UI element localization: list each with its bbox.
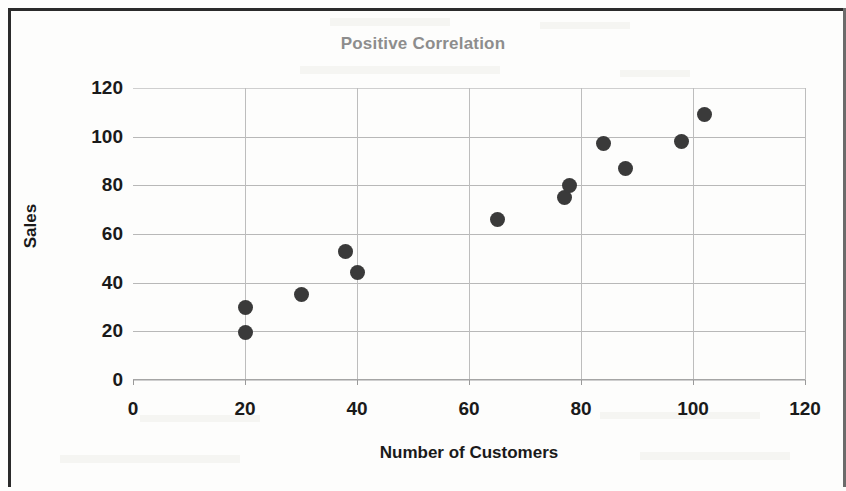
- plot-area: [133, 88, 805, 380]
- y-axis-title: Sales: [21, 171, 41, 281]
- tick-x-60: [469, 380, 470, 385]
- y-tick-label-0: 0: [53, 369, 123, 391]
- data-point: [562, 178, 577, 193]
- data-point: [490, 212, 505, 227]
- x-tick-label-0: 0: [93, 398, 173, 420]
- data-point: [350, 265, 365, 280]
- gridline-x-60: [469, 88, 470, 380]
- x-tick-label-40: 40: [317, 398, 397, 420]
- x-tick-label-80: 80: [541, 398, 621, 420]
- data-point: [674, 134, 689, 149]
- y-tick-label-120: 120: [53, 77, 123, 99]
- x-tick-label-100: 100: [653, 398, 733, 420]
- data-point: [238, 325, 253, 340]
- chart-page: Positive Correlation 020406080100120 020…: [0, 0, 846, 491]
- gridline-x-100: [693, 88, 694, 380]
- x-tick-label-20: 20: [205, 398, 285, 420]
- data-point: [697, 107, 712, 122]
- tick-x-80: [581, 380, 582, 385]
- y-tick-label-20: 20: [53, 320, 123, 342]
- data-point: [618, 161, 633, 176]
- y-tick-label-80: 80: [53, 174, 123, 196]
- tick-x-40: [357, 380, 358, 385]
- x-tick-label-60: 60: [429, 398, 509, 420]
- tick-x-120: [805, 380, 806, 385]
- y-tick-label-100: 100: [53, 126, 123, 148]
- data-point: [238, 300, 253, 315]
- gridline-x-40: [357, 88, 358, 380]
- data-point: [596, 136, 611, 151]
- data-point: [294, 287, 309, 302]
- y-tick-label-40: 40: [53, 272, 123, 294]
- tick-x-20: [245, 380, 246, 385]
- tick-x-100: [693, 380, 694, 385]
- gridline-x-80: [581, 88, 582, 380]
- tick-x-0: [133, 380, 134, 385]
- x-axis-title: Number of Customers: [133, 443, 805, 463]
- y-tick-label-60: 60: [53, 223, 123, 245]
- x-tick-label-120: 120: [765, 398, 845, 420]
- chart-title: Positive Correlation: [0, 34, 846, 54]
- data-point: [338, 244, 353, 259]
- gridline-x-120: [805, 88, 806, 380]
